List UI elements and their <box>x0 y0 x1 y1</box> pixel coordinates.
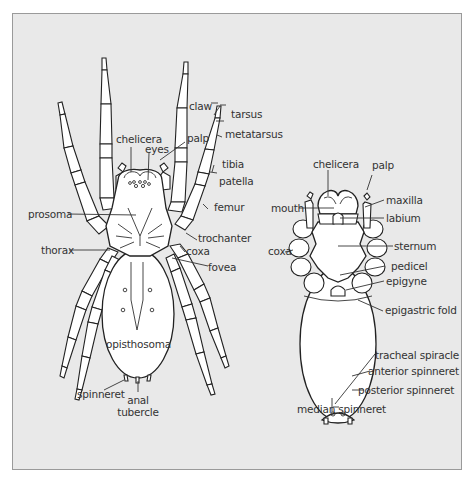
label-coxa-dorsal: coxa <box>186 245 210 257</box>
label-tibia: tibia <box>222 158 244 170</box>
label-maxilla: maxilla <box>386 194 423 206</box>
label-opisthosoma: opisthosoma <box>106 338 171 350</box>
leg-1-right <box>168 62 188 212</box>
label-femur: femur <box>214 201 244 213</box>
label-anal-tubercle-2: tubercle <box>114 406 162 418</box>
label-pedicel: pedicel <box>391 260 427 272</box>
label-thorax: thorax <box>41 244 74 256</box>
label-fovea: fovea <box>208 261 236 273</box>
label-tarsus: tarsus <box>231 108 262 120</box>
label-palp-ventral: palp <box>372 159 394 171</box>
label-prosoma: prosoma <box>28 208 72 220</box>
label-coxa-ventral: coxa <box>268 245 292 257</box>
label-anal-tubercle-1: anal <box>118 394 158 406</box>
label-mouth: mouth <box>271 202 304 214</box>
label-palp-dorsal: palp <box>187 132 209 144</box>
label-tracheal-spiracle: tracheal spiracle <box>375 349 459 361</box>
label-eyes: eyes <box>145 143 169 155</box>
sternum-shape <box>310 222 366 282</box>
label-labium: labium <box>386 212 421 224</box>
label-claw: claw <box>189 100 212 112</box>
label-trochanter: trochanter <box>198 232 251 244</box>
label-anterior-spinneret: anterior spinneret <box>368 365 459 377</box>
label-epigyne: epigyne <box>386 275 427 287</box>
label-patella: patella <box>219 175 254 187</box>
opisthosoma-dorsal <box>102 250 174 378</box>
label-chelicera-ventral: chelicera <box>313 158 359 170</box>
label-median-spinneret: median spinneret <box>297 403 386 415</box>
label-epigastric-fold: epigastric fold <box>385 304 457 316</box>
label-posterior-spinneret: posterior spinneret <box>358 384 454 396</box>
label-sternum: sternum <box>394 240 436 252</box>
leg-1-left <box>100 58 117 210</box>
label-metatarsus: metatarsus <box>225 128 283 140</box>
